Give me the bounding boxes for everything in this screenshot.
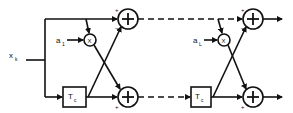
- stageL-tap-line: [218, 19, 222, 33]
- stage1-tap-line: [86, 19, 89, 33]
- stageL-coefficient-label: a: [193, 36, 198, 45]
- stageL-top-plus-sign: +: [241, 7, 245, 13]
- input-subscript: k: [15, 56, 18, 62]
- stageL-coefficient-subscript: L: [199, 41, 202, 47]
- input-label: x: [9, 51, 13, 60]
- stageL-delay-label: T: [195, 92, 200, 101]
- stage1-coefficient-label: a: [56, 36, 61, 45]
- lattice-filter-diagram: x k a 1 X T c + − − + a L X T c + − − +: [0, 0, 293, 113]
- stageL-bottom-minus-sign: −: [241, 83, 245, 89]
- stage1-delay-label: T: [68, 92, 73, 101]
- stage1-multiplier-symbol: X: [88, 38, 92, 44]
- stageL-bottom-plus-sign: +: [241, 104, 245, 110]
- stage1-top-plus-sign: +: [115, 7, 119, 13]
- stage1-bottom-minus-sign: −: [115, 83, 119, 89]
- stage1-top-minus-sign: −: [115, 25, 119, 31]
- stageL-top-minus-sign: −: [241, 25, 245, 31]
- stage1-bottom-plus-sign: +: [115, 104, 119, 110]
- stageL-multiplier-symbol: X: [222, 38, 226, 44]
- stage1-coefficient-subscript: 1: [62, 41, 65, 47]
